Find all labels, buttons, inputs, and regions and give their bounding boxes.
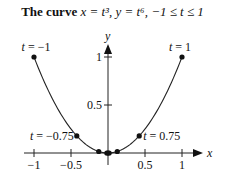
x-tick-label: 0.5: [138, 158, 153, 172]
y-tick-label: 0.5: [87, 98, 102, 112]
x-axis-arrow-icon: [193, 149, 203, 157]
point-label: t = 1: [169, 40, 191, 54]
curve-point: [107, 150, 112, 155]
curve-point: [137, 133, 142, 138]
x-tick-label: 1: [179, 158, 185, 172]
y-axis-label: y: [104, 29, 111, 43]
curve-point: [74, 133, 79, 138]
curve-point: [179, 54, 184, 59]
point-label: t = 0.75: [143, 129, 180, 143]
plot-area: xy−1−0.50.510.51t = −1t = −0.75t = 0.75t…: [0, 0, 225, 179]
curve-point: [96, 149, 101, 154]
point-label: t = −0.75: [30, 129, 74, 143]
x-tick-label: −1: [28, 158, 41, 172]
curve-point: [31, 54, 36, 59]
x-tick-label: −0.5: [60, 158, 82, 172]
x-axis-label: x: [206, 146, 213, 160]
point-label: t = −1: [22, 40, 51, 54]
y-tick-label: 1: [96, 50, 102, 64]
curve-point: [115, 149, 120, 154]
y-axis-arrow-icon: [104, 44, 112, 54]
